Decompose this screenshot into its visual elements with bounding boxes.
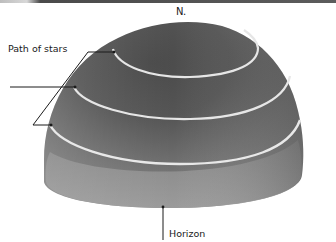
horizon-pointer [162,206,165,240]
sky-dome [44,22,303,208]
celestial-hemisphere-diagram [0,0,336,242]
horizon-label: Horizon [169,228,205,239]
north-label: N. [176,6,186,17]
path-of-stars-label: Path of stars [8,43,67,54]
